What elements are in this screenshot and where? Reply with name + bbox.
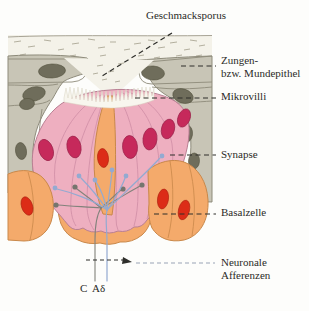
label-afferenzen-line1: Neuronale [221, 256, 267, 269]
label-epithel-line1: Zungen- [221, 54, 258, 67]
label-fiber-c: C [80, 282, 87, 295]
taste-bud-figure: Geschmacksporus Zungen- bzw. Mundepithel… [0, 0, 309, 311]
label-afferenzen-line2: Afferenzen [221, 269, 270, 282]
label-synapse: Synapse [221, 148, 258, 161]
label-geschmacksporus: Geschmacksporus [146, 9, 226, 22]
label-mikrovilli: Mikrovilli [221, 90, 266, 103]
label-epithel-line2: bzw. Mundepithel [221, 67, 300, 80]
label-fiber-adelta: Aδ [92, 282, 105, 295]
arrow-icon [122, 257, 132, 264]
label-basalzelle: Basalzelle [221, 206, 266, 219]
